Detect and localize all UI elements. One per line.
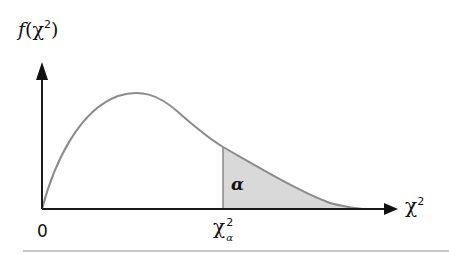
critical-superscript: 2: [226, 216, 233, 229]
x-axis-arrow-icon: [384, 203, 398, 215]
tail-area-label: α: [231, 174, 244, 194]
y-axis-label: f(χ2): [18, 18, 58, 40]
y-label-superscript: 2: [44, 18, 51, 31]
critical-chi: χ: [213, 215, 225, 239]
x-axis-label: χ2: [405, 194, 424, 218]
y-label-close-paren: ): [51, 18, 58, 40]
critical-subscript: α: [226, 232, 233, 243]
y-axis-arrow-icon: [36, 62, 48, 80]
critical-value-label: χ2α: [213, 215, 239, 241]
x-label-superscript: 2: [417, 195, 424, 208]
y-label-function: f: [18, 18, 25, 40]
y-label-chi: χ: [32, 18, 44, 40]
density-curve: [42, 93, 362, 209]
x-label-chi: χ: [405, 194, 417, 218]
origin-label: 0: [37, 221, 48, 241]
